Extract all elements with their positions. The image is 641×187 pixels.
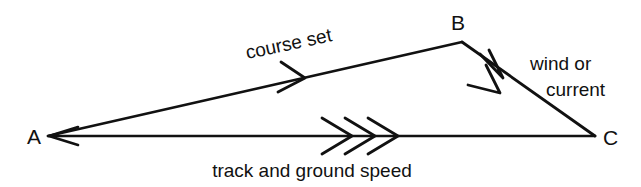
- edge-label-wind-or: wind or: [529, 53, 592, 74]
- edge-label-course-set: course set: [244, 24, 335, 63]
- vector-triangle-diagram: A B C course set wind or current track a…: [0, 0, 641, 187]
- edge-label-current: current: [546, 79, 606, 100]
- vertex-label-b: B: [451, 11, 465, 34]
- vertex-label-a: A: [27, 125, 41, 148]
- vertex-label-c: C: [603, 126, 618, 149]
- edge-label-track-and-ground-speed: track and ground speed: [212, 160, 412, 181]
- vector-triangle-canvas: A B C course set wind or current track a…: [0, 0, 641, 187]
- course-set-arrowhead-icon: [278, 62, 305, 92]
